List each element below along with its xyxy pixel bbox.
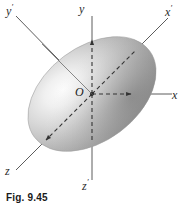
- axis-label-z: z: [5, 163, 10, 177]
- figure-caption: Fig. 9.45: [6, 192, 48, 203]
- origin-label: O: [75, 85, 84, 100]
- figure-drawing: [0, 0, 186, 206]
- axis-label-x: x: [172, 87, 177, 101]
- axis-label-y-prime: y′: [6, 3, 13, 17]
- axis-label-x-prime: x′: [165, 4, 172, 18]
- axis-label-y: y: [79, 1, 84, 15]
- figure-container: y′ y x′ x z z′ O Fig. 9.45: [0, 0, 186, 206]
- axis-label-z-prime: z′: [82, 178, 89, 192]
